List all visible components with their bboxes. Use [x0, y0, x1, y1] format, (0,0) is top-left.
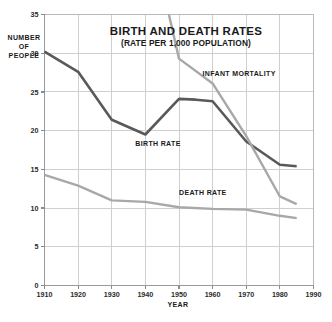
- series-label-infant-mortality: INFANT MORTALITY: [203, 70, 276, 77]
- chart-subtitle: (RATE PER 1,000 POPULATION): [121, 38, 251, 48]
- y-axis-title-line-3: PEOPLE: [9, 52, 40, 59]
- y-axis-tick-label: 0: [35, 281, 39, 290]
- y-axis-title-line-2: OF: [19, 43, 30, 50]
- x-axis-tick-label: 1910: [37, 290, 53, 299]
- x-axis-tick-label: 1960: [205, 290, 221, 299]
- x-axis-tick-label: 1990: [306, 290, 322, 299]
- chart-title: BIRTH AND DEATH RATES: [110, 25, 262, 37]
- x-axis-tick-label: 1920: [70, 290, 86, 299]
- y-axis-tick-label: 20: [31, 126, 39, 135]
- y-axis-tick-label: 15: [31, 165, 39, 174]
- y-axis-title-line-1: NUMBER: [7, 34, 40, 41]
- birth-and-death-rates-chart: 05101520253035 1910192019301940195019601…: [0, 0, 332, 322]
- y-axis-tick-label: 10: [31, 204, 39, 213]
- x-axis-tick-label: 1930: [104, 290, 120, 299]
- x-axis-tick-label: 1940: [137, 290, 153, 299]
- x-axis-title: YEAR: [167, 301, 188, 308]
- series-label-birth-rate: BIRTH RATE: [135, 140, 180, 147]
- y-axis-tick-label: 25: [31, 88, 39, 97]
- x-axis-tick-label: 1980: [272, 290, 288, 299]
- chart-container: 05101520253035 1910192019301940195019601…: [0, 0, 332, 322]
- y-axis-tick-label: 5: [35, 242, 39, 251]
- series-label-death-rate: DEATH RATE: [179, 189, 227, 196]
- x-axis-tick-label: 1970: [238, 290, 254, 299]
- x-axis-tick-label: 1950: [171, 290, 187, 299]
- y-axis-tick-label: 35: [31, 10, 39, 19]
- chart-background: [0, 0, 332, 322]
- x-axis-tick-labels: 191019201930194019501960197019801990: [37, 290, 322, 299]
